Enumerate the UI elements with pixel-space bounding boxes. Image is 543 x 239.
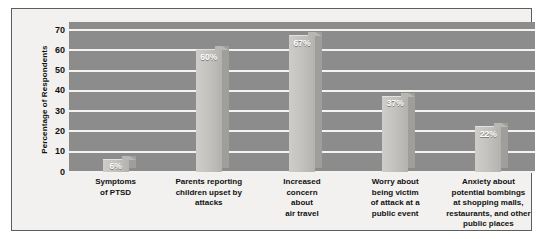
bar: 60%	[196, 50, 222, 172]
chart-frame: Percentage of Respondents 70605040302010…	[11, 8, 532, 231]
bar-value-label: 6%	[103, 162, 129, 171]
x-category-label: Anxiety aboutpotential bombingsat shoppi…	[435, 177, 542, 230]
bar-top-face	[122, 156, 136, 160]
x-category-label: Increasedconcernaboutair travel	[248, 177, 355, 219]
bar-value-label: 60%	[196, 53, 222, 62]
bar-chart-figure: Percentage of Respondents 70605040302010…	[0, 0, 543, 239]
bar-side-face	[315, 32, 322, 168]
x-category-label-line: at shopping malls,	[435, 198, 542, 209]
x-category-label-line: Symptoms	[62, 177, 169, 188]
x-category-label-line: Parents reporting	[155, 177, 262, 188]
x-category-label: Symptomsof PTSD	[62, 177, 169, 198]
x-axis-category-labels: Symptomsof PTSDParents reportingchildren…	[69, 177, 535, 237]
y-tick-label: 40	[39, 86, 65, 95]
bar-top-face	[308, 32, 322, 36]
y-tick-label: 30	[39, 107, 65, 116]
bar-side-face	[408, 93, 415, 168]
bar: 67%	[289, 36, 315, 172]
y-tick-label: 50	[39, 66, 65, 75]
x-category-label-line: being victim	[342, 188, 449, 199]
x-category-label-line: public places	[435, 219, 542, 230]
bar-front-face	[289, 35, 315, 172]
gridline	[69, 29, 535, 31]
bar: 37%	[382, 97, 408, 172]
x-category-label-line: public event	[342, 209, 449, 220]
bar-top-face	[215, 46, 229, 50]
bar-value-label: 37%	[382, 99, 408, 108]
bar-side-face	[222, 46, 229, 168]
bar-value-label: 22%	[475, 130, 501, 139]
x-category-label-line: potential bombings	[435, 188, 542, 199]
x-category-label-line: Increased	[248, 177, 355, 188]
x-category-label-line: of PTSD	[62, 188, 169, 199]
x-category-label: Parents reportingchildren upset byattack…	[155, 177, 262, 209]
x-category-label-line: concern	[248, 188, 355, 199]
bar-side-face	[501, 123, 508, 168]
y-tick-label: 10	[39, 147, 65, 156]
x-category-label-line: about	[248, 198, 355, 209]
x-category-label-line: air travel	[248, 209, 355, 220]
plot-area: 6%60%67%37%22%	[69, 22, 535, 172]
bar-front-face	[196, 49, 222, 172]
x-category-label-line: Worry about	[342, 177, 449, 188]
y-tick-label: 0	[39, 168, 65, 177]
y-tick-label: 20	[39, 127, 65, 136]
bar: 6%	[103, 160, 129, 172]
x-category-label-line: Anxiety about	[435, 177, 542, 188]
x-category-label: Worry aboutbeing victimof attack at apub…	[342, 177, 449, 219]
x-category-label-line: children upset by	[155, 188, 262, 199]
bar-top-face	[494, 123, 508, 127]
x-category-label-line: of attack at a	[342, 198, 449, 209]
y-tick-label: 70	[39, 26, 65, 35]
y-axis-tick-labels: 706050403020100	[37, 22, 65, 172]
y-tick-label: 60	[39, 46, 65, 55]
bar-value-label: 67%	[289, 39, 315, 48]
x-category-label-line: restaurants, and other	[435, 209, 542, 220]
bar-top-face	[401, 93, 415, 97]
bar: 22%	[475, 127, 501, 172]
x-category-label-line: attacks	[155, 198, 262, 209]
